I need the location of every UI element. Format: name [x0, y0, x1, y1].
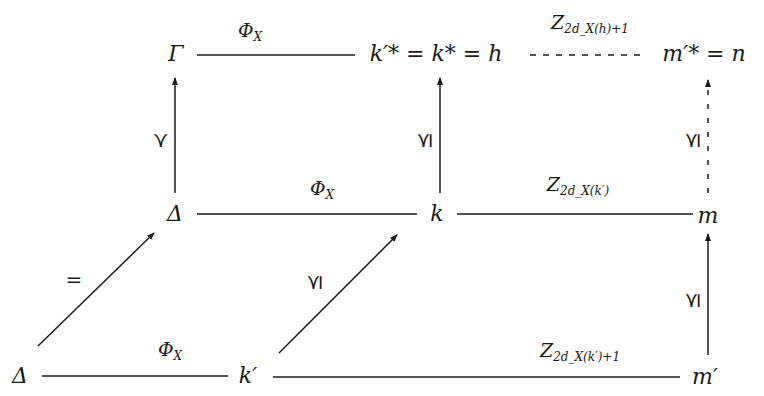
label-base: Φ — [310, 177, 326, 199]
node-delta-mid: Δ — [167, 203, 183, 225]
node-m-prime: m′ — [692, 366, 718, 388]
label-base: Φ — [238, 19, 254, 41]
label-vertical-right-upper-preceq: ⪯ — [682, 132, 702, 149]
label-sub: X — [254, 30, 263, 44]
label-mid-right-z: Z2d_X(k′) — [547, 175, 609, 197]
node-top-middle: k′* = k* = h — [370, 43, 503, 65]
label-sub: X — [174, 349, 183, 363]
label-bottom-left-phi: ΦX — [158, 340, 182, 362]
label-sub: 2d_X(k′)+1 — [553, 350, 620, 364]
label-top-left-phi: ΦX — [238, 21, 262, 43]
label-vertical-middle-preceq: ⪯ — [414, 132, 434, 149]
node-k: k — [430, 203, 443, 225]
label-base: Z — [540, 339, 553, 361]
node-gamma: Γ — [168, 43, 183, 65]
label-base: Z — [547, 173, 560, 195]
label-bottom-right-z: Z2d_X(k′)+1 — [540, 341, 620, 363]
label-diagonal-left-equals: = — [66, 270, 83, 290]
label-sub: X — [326, 188, 335, 202]
node-top-right: m′* = n — [662, 43, 745, 65]
node-k-prime: k′ — [239, 365, 257, 387]
label-mid-left-phi: ΦX — [310, 179, 334, 201]
label-base: Φ — [158, 338, 174, 360]
arrow-k-prime-to-k — [279, 235, 397, 353]
label-top-right-z: Z2d_X(h)+1 — [551, 13, 629, 35]
label-vertical-right-lower-preceq: ⪯ — [682, 292, 702, 309]
label-vertical-left-prec: ≺ — [150, 132, 170, 149]
label-sub: 2d_X(k′) — [560, 184, 609, 198]
label-base: Z — [551, 11, 564, 33]
node-delta-bottom: Δ — [12, 365, 28, 387]
label-sub: 2d_X(h)+1 — [564, 22, 629, 36]
node-m: m — [698, 205, 719, 227]
arrow-delta-bottom-to-delta-mid — [38, 233, 154, 346]
label-diagonal-right-preceq: ⪯ — [304, 274, 324, 291]
